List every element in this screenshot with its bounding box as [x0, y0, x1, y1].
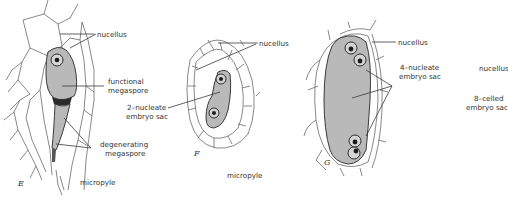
label-e-nucellus: nucellus	[97, 30, 127, 39]
nucleolus-icon	[212, 111, 216, 115]
panel-f: nucellus 2–nucleate embryo sac micropyle…	[126, 39, 289, 180]
label-four-nucleate: 4–nucleate	[400, 63, 440, 72]
nucleolus-icon	[219, 77, 223, 81]
label-four-nucleate-2: embryo sac	[399, 72, 441, 81]
label-f-micropyle: micropyle	[227, 171, 263, 180]
embryo-sac-development-diagram: nucellus functional megaspore degenerati…	[0, 0, 508, 203]
label-eight-celled: 8–celled	[474, 94, 504, 103]
panel-e-nucellus-cells	[4, 0, 94, 195]
degenerating-tip	[52, 148, 56, 162]
nucleolus-icon	[349, 47, 354, 52]
label-eight-celled-2: embryo sac	[466, 103, 508, 112]
panel-letter-f: F	[193, 149, 200, 158]
label-degenerating-megaspore-2: megaspore	[105, 149, 146, 158]
nucleolus-icon	[55, 58, 60, 63]
label-h-nucellus: nucellus	[479, 64, 508, 73]
nucleus-bottom-2	[348, 147, 360, 159]
label-two-nucleate-2: embryo sac	[126, 112, 168, 121]
panel-g: nucellus 4–nucleate embryo sac G	[304, 20, 441, 176]
label-e-micropyle: micropyle	[80, 178, 116, 187]
label-functional-megaspore-2: megaspore	[108, 86, 149, 95]
panel-letter-g: G	[324, 158, 331, 167]
label-g-nucellus: nucellus	[398, 38, 428, 47]
panel-e: nucellus functional megaspore degenerati…	[4, 0, 149, 195]
nucleolus-icon	[358, 59, 363, 64]
label-f-nucellus: nucellus	[259, 39, 289, 48]
panel-h: nucellus 8–celled embryo sac	[466, 64, 508, 112]
nucleolus-icon	[354, 149, 359, 154]
degenerating-megaspore	[52, 104, 70, 150]
panel-letter-e: E	[17, 179, 24, 188]
label-degenerating-megaspore: degenerating	[100, 140, 148, 149]
label-functional-megaspore: functional	[108, 77, 144, 86]
nucleolus-icon	[353, 140, 358, 145]
label-two-nucleate: 2–nucleate	[127, 103, 167, 112]
